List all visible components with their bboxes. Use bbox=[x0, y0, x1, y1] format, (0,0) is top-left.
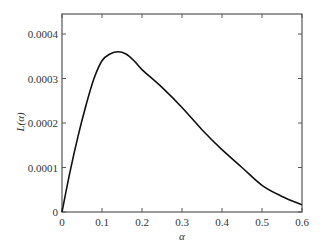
x-axis-label: α bbox=[179, 230, 185, 242]
x-tick-label: 0 bbox=[59, 216, 65, 228]
data-line bbox=[62, 52, 302, 212]
x-tick-label: 0.6 bbox=[295, 216, 309, 228]
plot-frame bbox=[62, 14, 302, 212]
y-tick-label: 0.0004 bbox=[28, 28, 59, 40]
x-tick-label: 0.5 bbox=[255, 216, 269, 228]
y-tick-label: 0.0001 bbox=[28, 162, 58, 174]
x-tick-label: 0.3 bbox=[175, 216, 189, 228]
y-tick-label: 0 bbox=[53, 206, 59, 218]
plot-area: 00.10.20.30.40.50.600.00010.00020.00030.… bbox=[28, 14, 310, 228]
y-axis-label: L(α) bbox=[14, 112, 27, 133]
y-tick-label: 0.0003 bbox=[28, 73, 59, 85]
x-tick-label: 0.2 bbox=[135, 216, 149, 228]
x-tick-label: 0.1 bbox=[95, 216, 109, 228]
y-tick-label: 0.0002 bbox=[28, 117, 58, 129]
chart: 00.10.20.30.40.50.600.00010.00020.00030.… bbox=[0, 0, 323, 248]
x-tick-label: 0.4 bbox=[215, 216, 229, 228]
